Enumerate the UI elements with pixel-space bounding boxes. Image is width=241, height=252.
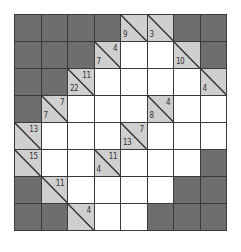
entry-cell[interactable] <box>121 96 147 122</box>
block-cell <box>15 15 41 41</box>
entry-cell[interactable] <box>95 96 121 122</box>
block-cell <box>15 96 41 122</box>
entry-cell[interactable] <box>95 123 121 149</box>
entry-cell[interactable] <box>201 123 227 149</box>
block-cell <box>68 15 94 41</box>
block-cell <box>42 42 68 68</box>
across-clue: 11 <box>109 153 117 161</box>
block-cell <box>148 204 174 230</box>
clue-cell: 137 <box>121 123 147 149</box>
across-clue: 4 <box>166 99 170 107</box>
across-clue: 13 <box>29 126 37 134</box>
entry-cell[interactable] <box>174 96 200 122</box>
entry-cell[interactable] <box>95 69 121 95</box>
across-clue: 7 <box>60 99 64 107</box>
across-clue: 4 <box>113 45 117 53</box>
clue-cell: 4 <box>201 69 227 95</box>
block-cell <box>42 69 68 95</box>
block-cell <box>174 15 200 41</box>
across-clue: 4 <box>86 207 90 215</box>
across-clue: 7 <box>139 126 143 134</box>
block-cell <box>15 177 41 203</box>
entry-cell[interactable] <box>121 204 147 230</box>
entry-cell[interactable] <box>42 150 68 176</box>
block-cell <box>201 177 227 203</box>
clue-cell: 2211 <box>68 69 94 95</box>
clue-cell: 74 <box>95 42 121 68</box>
block-cell <box>95 15 121 41</box>
clue-cell: 3 <box>148 15 174 41</box>
entry-cell[interactable] <box>148 42 174 68</box>
block-cell <box>201 150 227 176</box>
block-cell <box>174 204 200 230</box>
clue-cell: 10 <box>174 42 200 68</box>
clue-cell: 11 <box>42 177 68 203</box>
block-cell <box>201 42 227 68</box>
block-cell <box>15 42 41 68</box>
entry-cell[interactable] <box>201 96 227 122</box>
entry-cell[interactable] <box>148 69 174 95</box>
block-cell <box>15 69 41 95</box>
across-clue: 15 <box>29 153 37 161</box>
block-cell <box>174 177 200 203</box>
entry-cell[interactable] <box>95 204 121 230</box>
down-clue: 9 <box>123 31 127 39</box>
entry-cell[interactable] <box>174 123 200 149</box>
entry-cell[interactable] <box>68 150 94 176</box>
clue-cell: 13 <box>15 123 41 149</box>
block-cell <box>42 15 68 41</box>
kakuro-board: 9374102211477841313715411114 <box>14 14 227 231</box>
down-clue: 4 <box>97 166 101 174</box>
clue-cell: 411 <box>95 150 121 176</box>
entry-cell[interactable] <box>68 96 94 122</box>
down-clue: 8 <box>150 112 154 120</box>
clue-cell: 84 <box>148 96 174 122</box>
entry-cell[interactable] <box>174 69 200 95</box>
clue-cell: 77 <box>42 96 68 122</box>
clue-cell: 4 <box>68 204 94 230</box>
entry-cell[interactable] <box>95 177 121 203</box>
entry-cell[interactable] <box>42 123 68 149</box>
entry-cell[interactable] <box>121 177 147 203</box>
across-clue: 11 <box>82 72 90 80</box>
entry-cell[interactable] <box>174 150 200 176</box>
down-clue: 7 <box>44 112 48 120</box>
down-clue: 7 <box>97 58 101 66</box>
block-cell <box>68 42 94 68</box>
down-clue: 22 <box>70 85 78 93</box>
entry-cell[interactable] <box>68 123 94 149</box>
down-clue: 10 <box>176 58 184 66</box>
down-clue: 3 <box>150 31 154 39</box>
entry-cell[interactable] <box>148 150 174 176</box>
entry-cell[interactable] <box>148 123 174 149</box>
entry-cell[interactable] <box>121 42 147 68</box>
clue-cell: 15 <box>15 150 41 176</box>
entry-cell[interactable] <box>121 69 147 95</box>
down-clue: 4 <box>203 85 207 93</box>
across-clue: 11 <box>56 180 64 188</box>
entry-cell[interactable] <box>121 150 147 176</box>
block-cell <box>15 204 41 230</box>
entry-cell[interactable] <box>148 177 174 203</box>
entry-cell[interactable] <box>68 177 94 203</box>
block-cell <box>201 15 227 41</box>
block-cell <box>42 204 68 230</box>
down-clue: 13 <box>123 139 131 147</box>
clue-cell: 9 <box>121 15 147 41</box>
block-cell <box>201 204 227 230</box>
